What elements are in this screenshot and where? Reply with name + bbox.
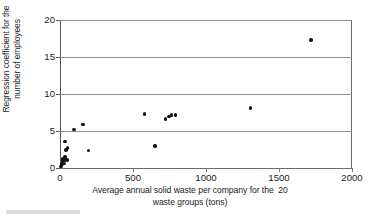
y-tick-label-10: 10 — [44, 89, 55, 99]
y-tick-label-20: 20 — [44, 15, 55, 25]
data-point — [309, 38, 313, 42]
plot-area: 05101520 0500100015002000 — [60, 20, 352, 168]
data-point — [63, 162, 67, 166]
gridline-y-5 — [60, 131, 352, 132]
data-point — [65, 158, 69, 162]
y-tick-15 — [56, 57, 60, 58]
y-axis-label-line-1: Regression coefficient for the — [1, 0, 12, 134]
scatter-chart-figure: Regression coefficient for the number of… — [0, 0, 370, 220]
data-point — [72, 128, 76, 132]
x-tick-label-1000: 1000 — [195, 173, 216, 183]
data-point — [63, 140, 67, 144]
x-tick-label-500: 500 — [125, 173, 141, 183]
data-point — [249, 106, 253, 110]
data-point — [87, 149, 91, 153]
y-tick-label-5: 5 — [50, 126, 55, 136]
data-point — [143, 112, 147, 116]
y-axis-label-line-2: number of employees — [12, 0, 23, 134]
x-axis-label-line-2: waste groups (tons) — [40, 196, 340, 208]
data-point — [164, 117, 168, 121]
data-point — [66, 146, 70, 150]
data-point — [174, 113, 178, 117]
x-tick-label-1500: 1500 — [268, 173, 289, 183]
data-point — [170, 113, 174, 117]
x-tick-label-0: 0 — [57, 173, 62, 183]
x-axis-label: Average annual solid waste per company f… — [40, 184, 340, 208]
gridline-y-20 — [60, 20, 352, 21]
y-axis-label: Regression coefficient for the number of… — [1, 0, 35, 134]
y-tick-10 — [56, 94, 60, 95]
scan-artifact — [6, 210, 80, 214]
y-tick-label-0: 0 — [50, 163, 55, 173]
y-tick-label-15: 15 — [44, 52, 55, 62]
plot-right-border — [351, 20, 352, 169]
data-point — [81, 123, 85, 127]
gridline-y-10 — [60, 94, 352, 95]
x-tick-label-2000: 2000 — [341, 173, 362, 183]
data-point — [153, 144, 157, 148]
x-axis-label-line-1: Average annual solid waste per company f… — [40, 184, 340, 196]
y-tick-5 — [56, 131, 60, 132]
y-tick-20 — [56, 20, 60, 21]
gridline-y-15 — [60, 57, 352, 58]
